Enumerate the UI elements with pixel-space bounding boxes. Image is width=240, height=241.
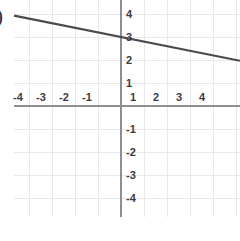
y-axis-tick-label: 3 (126, 32, 132, 43)
plotted-line-layer (0, 0, 240, 241)
y-axis-tick-label: -1 (126, 124, 136, 135)
x-axis-tick-label: -2 (59, 92, 69, 103)
y-axis-tick-label: -3 (126, 170, 136, 181)
x-axis-tick-label: -3 (36, 92, 46, 103)
x-axis-tick-label: -4 (13, 92, 23, 103)
x-axis-tick-label: 2 (153, 92, 159, 103)
x-axis-tick-label: -1 (82, 92, 92, 103)
coordinate-plane-graph: -4-3-2-112344321-1-2-3-4 ) (0, 0, 240, 241)
y-axis-tick-label: 4 (126, 9, 132, 20)
x-axis-tick-label: 3 (176, 92, 182, 103)
x-axis-tick-label: 1 (130, 92, 136, 103)
x-axis-tick-label: 4 (199, 92, 205, 103)
y-axis-tick-label: -4 (126, 193, 136, 204)
cut-off-parenthesis-glyph: ) (0, 6, 3, 27)
y-axis-tick-label: -2 (126, 147, 136, 158)
y-axis-tick-label: 1 (126, 78, 132, 89)
y-axis-tick-label: 2 (126, 55, 132, 66)
